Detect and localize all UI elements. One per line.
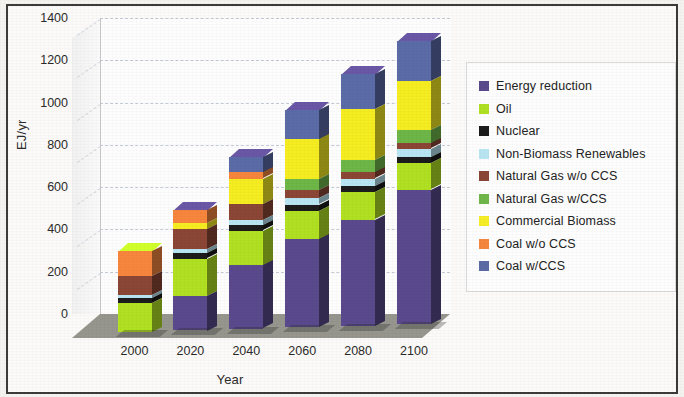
legend-item: Natural Gas w/CCS bbox=[479, 188, 667, 211]
legend-swatch bbox=[479, 239, 489, 249]
bar-segment bbox=[229, 204, 263, 220]
bar-segment-front bbox=[285, 179, 319, 190]
bar-segment bbox=[229, 157, 263, 173]
bar-segment bbox=[285, 179, 319, 190]
bar-segment-front bbox=[173, 229, 207, 249]
legend-swatch bbox=[479, 126, 489, 136]
bar-segment-front bbox=[285, 239, 319, 327]
bar-shadow bbox=[283, 325, 335, 332]
bar-segment-front bbox=[285, 110, 319, 140]
legend-item: Commercial Biomass bbox=[479, 210, 667, 233]
bar-segment bbox=[285, 239, 319, 327]
bar-segment-side bbox=[375, 104, 385, 160]
bar-segment-front bbox=[341, 109, 375, 160]
bar-segment-side bbox=[375, 69, 385, 109]
bar-segment bbox=[229, 179, 263, 204]
y-axis-title: EJ/yr bbox=[14, 119, 29, 150]
bar-segment bbox=[341, 192, 375, 219]
legend-label: Non-Biomass Renewables bbox=[496, 147, 646, 161]
legend-label: Energy reduction bbox=[496, 79, 592, 93]
bar-segment bbox=[173, 296, 207, 331]
x-axis-tick: 2000 bbox=[105, 344, 165, 358]
plot-area bbox=[72, 18, 450, 338]
y-axis-tick: 800 bbox=[24, 138, 68, 152]
legend-label: Coal w/CCS bbox=[496, 259, 565, 273]
legend-swatch bbox=[479, 194, 489, 204]
bar-segment bbox=[341, 109, 375, 160]
legend-swatch bbox=[479, 104, 489, 114]
bar-column bbox=[118, 251, 152, 332]
y-axis-tick: 1200 bbox=[24, 53, 68, 67]
x-axis-tick: 2040 bbox=[216, 344, 276, 358]
legend-label: Natural Gas w/o CCS bbox=[496, 169, 617, 183]
bar-segment-front bbox=[173, 210, 207, 223]
legend-label: Commercial Biomass bbox=[496, 214, 616, 228]
bar-segment-front bbox=[397, 190, 431, 324]
bar-segment bbox=[118, 276, 152, 295]
bar-segment bbox=[118, 251, 152, 276]
bar-segment-side bbox=[431, 185, 441, 324]
bar-segment bbox=[173, 259, 207, 296]
bar-segment bbox=[397, 149, 431, 157]
legend-item: Oil bbox=[479, 98, 667, 121]
legend-swatch bbox=[479, 261, 489, 271]
legend-label: Oil bbox=[496, 102, 512, 116]
bar-segment-front bbox=[173, 259, 207, 296]
legend-label: Nuclear bbox=[496, 124, 540, 138]
bar-segment bbox=[397, 163, 431, 189]
bar-shadow bbox=[115, 330, 167, 337]
bar-segment bbox=[397, 41, 431, 81]
bar-segment-side bbox=[431, 36, 441, 81]
legend-item: Coal w/CCS bbox=[479, 255, 667, 278]
bar-segment-front bbox=[229, 157, 263, 173]
bar-segment-front bbox=[341, 220, 375, 326]
bar-segment-front bbox=[397, 163, 431, 189]
bar-segment-front bbox=[341, 160, 375, 173]
bar-segment bbox=[341, 160, 375, 173]
bar-segment-front bbox=[229, 231, 263, 266]
bar-segment-side bbox=[263, 260, 273, 328]
bar-segment bbox=[397, 130, 431, 144]
bar-segment-front bbox=[118, 251, 152, 276]
bar-segment-front bbox=[229, 179, 263, 204]
bar-segment-side bbox=[375, 215, 385, 326]
bar-segment-front bbox=[397, 81, 431, 130]
y-axis-tick-group: 0200400600800100012001400 bbox=[16, 0, 68, 397]
legend-swatch bbox=[479, 171, 489, 181]
x-axis-tick: 2060 bbox=[272, 344, 332, 358]
legend-item: Coal w/o CCS bbox=[479, 233, 667, 256]
y-axis-tick: 400 bbox=[24, 222, 68, 236]
bar-segment bbox=[285, 211, 319, 240]
x-axis-tick: 2100 bbox=[384, 344, 444, 358]
bar-segment bbox=[118, 303, 152, 332]
bar-segment-front bbox=[397, 41, 431, 81]
bar-segment bbox=[397, 81, 431, 130]
legend-swatch bbox=[479, 216, 489, 226]
bar-column bbox=[397, 41, 431, 324]
bar-segment-side bbox=[207, 291, 217, 331]
legend-item: Nuclear bbox=[479, 120, 667, 143]
bar-segment bbox=[341, 179, 375, 186]
bar-segment bbox=[341, 74, 375, 109]
legend-label: Natural Gas w/CCS bbox=[496, 192, 607, 206]
bar-segment bbox=[285, 190, 319, 198]
y-axis-tick: 0 bbox=[24, 307, 68, 321]
legend-item: Non-Biomass Renewables bbox=[479, 143, 667, 166]
bar-segment bbox=[229, 265, 263, 328]
bar-shadow bbox=[395, 322, 447, 329]
bar-column bbox=[173, 210, 207, 330]
bar-segment-front bbox=[341, 192, 375, 219]
bar-segment bbox=[285, 110, 319, 140]
legend-label: Coal w/o CCS bbox=[496, 237, 576, 251]
y-axis-tick: 1000 bbox=[24, 96, 68, 110]
scanned-page: 0200400600800100012001400 EJ/yr Year 200… bbox=[0, 0, 684, 397]
legend-item: Energy reduction bbox=[479, 75, 667, 98]
bar-segment-side bbox=[319, 134, 329, 179]
bar-shadow bbox=[227, 327, 279, 334]
bar-segment bbox=[173, 210, 207, 223]
bar-segment bbox=[229, 231, 263, 266]
x-axis-title: Year bbox=[0, 372, 460, 387]
bar-column bbox=[229, 157, 263, 329]
bar-segment-front bbox=[285, 139, 319, 179]
y-axis-tick: 1400 bbox=[24, 11, 68, 25]
